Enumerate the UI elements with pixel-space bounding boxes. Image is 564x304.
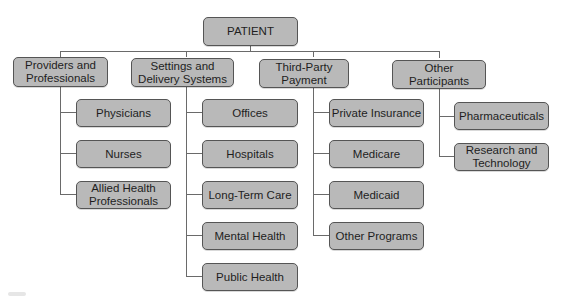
connector — [186, 194, 202, 195]
node-medicare: Medicare — [329, 140, 424, 168]
node-label: Professionals — [89, 195, 158, 208]
node-label: Participants — [409, 75, 469, 88]
node-label: Hospitals — [226, 148, 273, 161]
node-nurses: Nurses — [76, 140, 171, 168]
node-pharmaceuticals: Pharmaceuticals — [454, 102, 549, 130]
connector — [313, 235, 329, 236]
node-private-insurance: Private Insurance — [329, 99, 424, 127]
connector — [60, 112, 76, 113]
connector — [186, 235, 202, 236]
node-label: Public Health — [216, 271, 284, 284]
node-label: Allied Health — [89, 182, 158, 195]
providers-stem — [60, 87, 61, 195]
node-hospitals: Hospitals — [202, 140, 298, 168]
category-bus — [60, 51, 440, 52]
node-label: Other — [409, 62, 469, 75]
node-label: Long-Term Care — [208, 189, 291, 202]
node-other-participants: OtherParticipants — [392, 60, 486, 89]
payment-stem — [313, 87, 314, 236]
node-label: Third-Party — [276, 61, 333, 74]
connector — [439, 116, 454, 117]
node-label: Medicaid — [353, 189, 399, 202]
node-physicians: Physicians — [76, 99, 171, 127]
connector — [60, 194, 76, 195]
node-settings-and-delivery-systems: Settings andDelivery Systems — [131, 58, 234, 87]
node-label: Professionals — [25, 72, 96, 85]
settings-stem — [186, 87, 187, 277]
node-label: Offices — [232, 107, 268, 120]
node-label: Technology — [466, 157, 538, 170]
node-providers-and-professionals: Providers andProfessionals — [13, 57, 108, 87]
connector — [186, 276, 202, 277]
connector — [60, 153, 76, 154]
node-research-and-technology: Research andTechnology — [454, 143, 549, 171]
settings-drop — [186, 51, 187, 57]
connector — [313, 112, 329, 113]
node-label: Other Programs — [336, 230, 418, 243]
node-label: Private Insurance — [332, 107, 422, 120]
faint-caption-mark — [8, 292, 26, 296]
node-label: Medicare — [353, 148, 400, 161]
node-offices: Offices — [202, 99, 298, 127]
node-third-party-payment: Third-PartyPayment — [259, 59, 349, 88]
node-label: Pharmaceuticals — [459, 110, 544, 123]
node-label: Research and — [466, 144, 538, 157]
node-other-programs: Other Programs — [329, 222, 424, 250]
node-long-term-care: Long-Term Care — [202, 181, 298, 209]
node-label: Settings and — [138, 60, 227, 73]
node-label: Physicians — [96, 107, 151, 120]
node-label: Mental Health — [215, 230, 286, 243]
node-medicaid: Medicaid — [329, 181, 424, 209]
connector — [439, 156, 454, 157]
node-label: Payment — [276, 74, 333, 87]
node-public-health: Public Health — [202, 263, 298, 291]
connector — [313, 153, 329, 154]
connector — [186, 153, 202, 154]
other-drop — [439, 51, 440, 58]
other-stem — [439, 88, 440, 157]
connector — [313, 194, 329, 195]
connector — [186, 112, 202, 113]
payment-drop — [313, 51, 314, 57]
node-label: Delivery Systems — [138, 73, 227, 86]
node-patient: PATIENT — [203, 17, 298, 46]
node-label: Providers and — [25, 59, 96, 72]
node-allied-health-professionals: Allied HealthProfessionals — [76, 181, 171, 209]
node-label: Nurses — [105, 148, 141, 161]
node-mental-health: Mental Health — [202, 222, 298, 250]
node-label: PATIENT — [227, 25, 274, 38]
